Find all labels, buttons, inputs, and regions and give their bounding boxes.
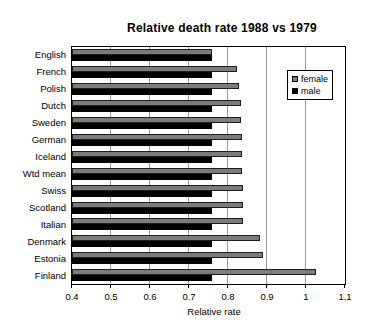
- bar-male-german: [72, 140, 212, 146]
- x-tick-0.7: [188, 284, 189, 288]
- bar-male-scotland: [72, 208, 212, 214]
- bar-male-polish: [72, 89, 212, 95]
- bar-male-sweden: [72, 123, 212, 129]
- relative-death-rate-chart: Relative death rate 1988 vs 1979 English…: [0, 0, 370, 336]
- x-tick-label-1: 1: [291, 291, 321, 302]
- x-tick-label-0.6: 0.6: [135, 291, 165, 302]
- bar-male-iceland: [72, 157, 212, 163]
- x-tick-0.8: [227, 284, 228, 288]
- x-tick-label-0.8: 0.8: [213, 291, 243, 302]
- x-tick-1: [305, 284, 306, 288]
- gridline-0.9: [266, 47, 267, 284]
- bar-male-estonia: [72, 258, 212, 264]
- x-tick-0.4: [71, 284, 72, 288]
- legend: femalemale: [287, 70, 333, 100]
- bar-male-english: [72, 55, 212, 61]
- category-label-iceland: Iceland: [0, 151, 66, 163]
- category-label-polish: Polish: [0, 83, 66, 95]
- bar-male-wtd-mean: [72, 174, 212, 180]
- category-label-denmark: Denmark: [0, 236, 66, 248]
- x-tick-1.1: [344, 284, 345, 288]
- legend-item-female: female: [292, 74, 328, 84]
- category-label-swiss: Swiss: [0, 185, 66, 197]
- category-label-french: French: [0, 66, 66, 78]
- legend-label-female: female: [301, 74, 328, 84]
- category-label-sweden: Sweden: [0, 117, 66, 129]
- x-tick-label-0.5: 0.5: [96, 291, 126, 302]
- category-label-finland: Finland: [0, 270, 66, 282]
- bar-male-italian: [72, 224, 212, 230]
- legend-item-male: male: [292, 86, 328, 96]
- category-label-wtd-mean: Wtd mean: [0, 168, 66, 180]
- chart-title: Relative death rate 1988 vs 1979: [77, 21, 367, 35]
- bar-male-finland: [72, 275, 212, 281]
- x-axis-title: Relative rate: [158, 306, 270, 317]
- legend-swatch-female: [292, 76, 298, 82]
- bar-male-french: [72, 72, 212, 78]
- bar-male-swiss: [72, 191, 212, 197]
- bar-male-denmark: [72, 241, 212, 247]
- x-tick-0.9: [266, 284, 267, 288]
- x-tick-label-0.4: 0.4: [57, 291, 87, 302]
- x-tick-0.5: [110, 284, 111, 288]
- legend-swatch-male: [292, 88, 298, 94]
- x-tick-label-1.1: 1.1: [330, 291, 360, 302]
- bar-male-dutch: [72, 106, 212, 112]
- legend-label-male: male: [301, 86, 321, 96]
- x-tick-label-0.9: 0.9: [252, 291, 282, 302]
- x-tick-label-0.7: 0.7: [174, 291, 204, 302]
- category-label-dutch: Dutch: [0, 100, 66, 112]
- x-tick-0.6: [149, 284, 150, 288]
- category-label-english: English: [0, 49, 66, 61]
- category-label-estonia: Estonia: [0, 253, 66, 265]
- category-label-german: German: [0, 134, 66, 146]
- category-label-italian: Italian: [0, 219, 66, 231]
- category-label-scotland: Scotland: [0, 202, 66, 214]
